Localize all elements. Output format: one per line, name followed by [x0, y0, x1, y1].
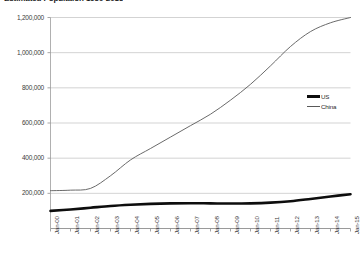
x-axis-tick-label: Jan-08 — [213, 216, 220, 234]
x-axis-tick-label: Jan-03 — [113, 216, 120, 234]
x-axis-tick-label: Jan-02 — [93, 216, 100, 234]
x-axis-tick-label: Jan-07 — [193, 216, 200, 234]
chart-legend: US China — [307, 92, 357, 112]
x-axis-tick-label: Jan-13 — [313, 216, 320, 234]
gridlines-group — [51, 18, 351, 194]
legend-label-china: China — [321, 103, 336, 111]
y-axis-tick-label: 400,000 — [0, 154, 44, 161]
y-axis-tick-label: 800,000 — [0, 84, 44, 91]
x-axis-tick-label: Jan-05 — [153, 216, 160, 234]
legend-swatch-china-icon — [307, 104, 320, 110]
x-axis-tick-label: Jan-04 — [133, 216, 140, 234]
x-axis-tick-label: Jan-12 — [293, 216, 300, 234]
x-axis-tick-label: Jan-14 — [333, 216, 340, 234]
y-axis-tick-label: 600,000 — [0, 119, 44, 126]
x-axis-tick-label: Jan-10 — [253, 216, 260, 234]
x-axis-tick-label: Jan-11 — [273, 216, 280, 233]
chart-container: Estimated Population 1950-2015 200,00040… — [0, 0, 361, 267]
legend-item-china: China — [307, 102, 357, 111]
x-axis-tick-label: Jan-01 — [73, 216, 80, 234]
y-axis-tick-label: 200,000 — [0, 189, 44, 196]
x-axis-tick-label: Jan-09 — [233, 216, 240, 234]
series-line-china — [51, 18, 351, 191]
y-axis-tick-label: 1,000,000 — [0, 49, 44, 56]
legend-swatch-us-icon — [307, 94, 320, 100]
x-axis-tick-label: Jan-06 — [173, 216, 180, 234]
data-series-group — [51, 18, 351, 211]
y-axis-tick-label: 1,200,000 — [0, 14, 44, 21]
legend-item-us: US — [307, 92, 357, 101]
legend-label-us: US — [321, 93, 329, 101]
series-line-us — [51, 194, 351, 211]
x-axis-tick-label: Jan-00 — [53, 216, 60, 234]
x-axis-tick-label: Jan-15 — [353, 216, 360, 234]
